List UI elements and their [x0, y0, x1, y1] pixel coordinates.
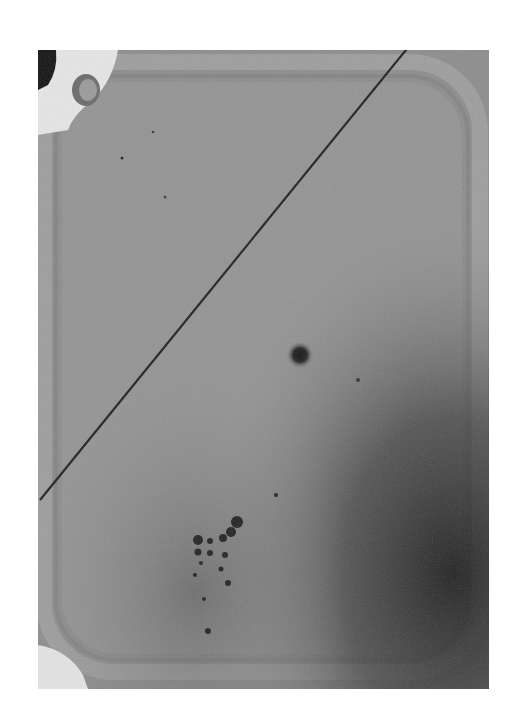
micrograph-image	[38, 50, 489, 689]
micrograph-svg	[38, 50, 489, 689]
